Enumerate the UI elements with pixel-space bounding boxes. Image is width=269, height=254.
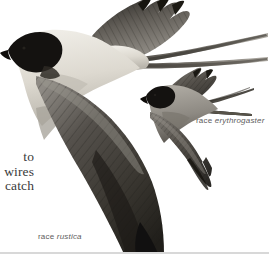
swallow-illustration bbox=[0, 0, 269, 254]
caption-race-rustica: race rustica bbox=[38, 232, 82, 241]
body-text-line-3: catch bbox=[0, 179, 34, 194]
body-text-line-1: to bbox=[0, 150, 34, 165]
caption-scientific-erythrogaster: erythrogaster bbox=[215, 116, 265, 125]
caption-prefix-erythrogaster: race bbox=[196, 116, 215, 125]
caption-prefix-rustica: race bbox=[38, 232, 57, 241]
body-text-line-2: wires bbox=[0, 165, 34, 180]
caption-race-erythrogaster: race erythrogaster bbox=[196, 116, 265, 125]
caption-scientific-rustica: rustica bbox=[57, 232, 82, 241]
illustration-plate: to wires catch race erythrogaster race r… bbox=[0, 0, 269, 254]
marginal-body-text: to wires catch bbox=[0, 150, 34, 194]
